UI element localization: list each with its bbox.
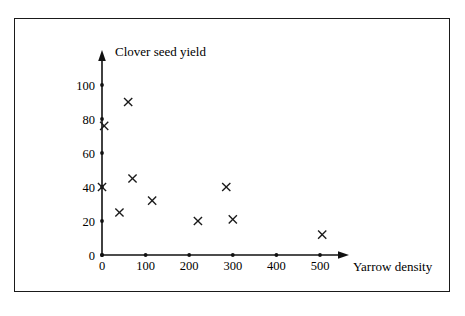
- x-axis-arrowhead-icon: [338, 251, 349, 259]
- y-tick-dot-60: [100, 151, 104, 155]
- y-tick-dot-20: [100, 219, 104, 223]
- x-tick-label-300: 300: [223, 259, 242, 273]
- x-axis-title: Yarrow density: [353, 259, 433, 274]
- y-axis-arrowhead-icon: [98, 50, 106, 61]
- y-tick-label-80: 80: [83, 113, 96, 127]
- x-tick-dot-500: [318, 253, 322, 257]
- y-tick-dot-100: [100, 83, 104, 87]
- x-axis: [102, 251, 349, 259]
- x-tick-dot-300: [231, 253, 235, 257]
- x-tick-label-0: 0: [99, 259, 105, 273]
- y-tick-label-100: 100: [76, 79, 95, 93]
- x-tick-label-200: 200: [180, 259, 199, 273]
- y-axis-title: Clover seed yield: [115, 44, 206, 59]
- y-axis-tick-labels: 0 20 40 60 80 100: [76, 79, 95, 263]
- x-tick-dot-0: [100, 253, 104, 257]
- x-tick-dot-100: [144, 253, 148, 257]
- data-point-marker: [222, 183, 230, 191]
- y-tick-label-0: 0: [89, 249, 95, 263]
- data-point-marker: [194, 217, 202, 225]
- y-tick-label-40: 40: [83, 181, 96, 195]
- x-tick-label-400: 400: [267, 259, 286, 273]
- x-tick-dot-200: [187, 253, 191, 257]
- y-tick-label-60: 60: [83, 147, 96, 161]
- y-tick-label-20: 20: [83, 215, 96, 229]
- data-point-marker: [128, 174, 136, 182]
- y-tick-dot-80: [100, 117, 104, 121]
- x-tick-label-500: 500: [311, 259, 330, 273]
- plot-canvas: 0 20 40 60 80 100 0 100 200 300 400 500 …: [0, 0, 465, 316]
- x-tick-label-100: 100: [136, 259, 155, 273]
- data-points-layer: [98, 98, 326, 239]
- x-tick-dot-400: [275, 253, 279, 257]
- data-point-marker: [229, 215, 237, 223]
- x-axis-tick-labels: 0 100 200 300 400 500: [99, 259, 330, 273]
- scatter-plot-figure: 0 20 40 60 80 100 0 100 200 300 400 500 …: [0, 0, 465, 316]
- data-point-marker: [115, 208, 123, 216]
- data-point-marker: [124, 98, 132, 106]
- data-point-marker: [318, 231, 326, 239]
- data-point-marker: [148, 197, 156, 205]
